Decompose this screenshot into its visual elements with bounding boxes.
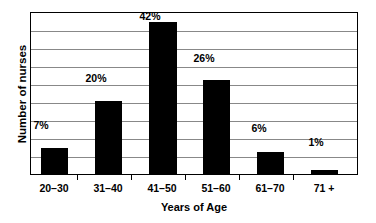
axis-tick	[185, 175, 186, 180]
category-label-61-70: 61–70	[247, 182, 293, 194]
bar-61-70	[257, 152, 284, 174]
y-axis-title: Number of nurses	[16, 19, 28, 169]
category-label-51-60: 51–60	[193, 182, 239, 194]
axis-tick	[239, 175, 240, 180]
data-label-61-70: 6%	[244, 122, 274, 134]
bar-71-plus	[311, 170, 338, 174]
bar-chart: Number of nurses 7% 20% 42% 26% 6% 1% 20…	[0, 0, 376, 223]
gridline	[31, 85, 357, 86]
category-label-41-50: 41–50	[139, 182, 185, 194]
bar-31-40	[95, 101, 122, 174]
axis-tick	[131, 175, 132, 180]
data-label-41-50: 42%	[133, 10, 167, 22]
category-label-31-40: 31–40	[85, 182, 131, 194]
data-label-31-40: 20%	[79, 72, 113, 84]
gridline	[31, 31, 357, 32]
category-label-71-plus: 71 +	[301, 182, 347, 194]
gridline	[31, 121, 357, 122]
gridline	[31, 103, 357, 104]
data-label-20-30: 7%	[26, 119, 56, 131]
bar-51-60	[203, 80, 230, 174]
category-label-20-30: 20–30	[31, 182, 77, 194]
gridline	[31, 157, 357, 158]
bar-20-30	[41, 148, 68, 174]
gridline	[31, 49, 357, 50]
axis-tick	[77, 175, 78, 180]
axis-tick	[293, 175, 294, 180]
plot-area	[30, 12, 358, 175]
gridline	[31, 67, 357, 68]
data-label-71-plus: 1%	[301, 136, 331, 148]
x-axis-title: Years of Age	[30, 201, 358, 213]
bar-41-50	[149, 22, 177, 174]
data-label-51-60: 26%	[187, 52, 221, 64]
